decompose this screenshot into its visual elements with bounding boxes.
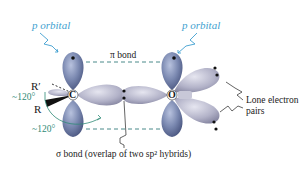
oxygen-atom-label: O xyxy=(168,90,176,100)
carbon-p-orbital-bottom xyxy=(62,100,83,137)
carbon-atom-label: C xyxy=(69,90,76,100)
r-prime-label: R′ xyxy=(31,81,41,92)
lone-pairs-label-line2: pairs xyxy=(246,107,264,117)
p-orbital-label-left: p orbital xyxy=(32,20,70,31)
pi-bond-label: π bond xyxy=(110,51,136,61)
r-label: R xyxy=(34,104,41,115)
p-orbital-label-right: p orbital xyxy=(182,20,220,31)
squiggle-arrow-lone-lower xyxy=(220,106,243,112)
angle-upper-label: ~120° xyxy=(12,93,35,103)
sigma-bond-label: σ bond (overlap of two sp² hybrids) xyxy=(56,150,191,160)
sigma-pointer-line xyxy=(120,101,126,148)
angle-lower-label: ~120° xyxy=(32,125,55,135)
electron-dot xyxy=(71,56,75,60)
squiggle-arrow-p-right xyxy=(178,33,197,53)
squiggle-arrow-p-left xyxy=(40,33,58,52)
lone-pairs-label-line1: Lone electron xyxy=(246,96,299,106)
carbon-sp2-sigma-lobe xyxy=(77,84,124,105)
squiggle-arrow-lone-upper xyxy=(226,82,243,100)
oxygen-sp2-sigma-lobe xyxy=(122,86,168,104)
